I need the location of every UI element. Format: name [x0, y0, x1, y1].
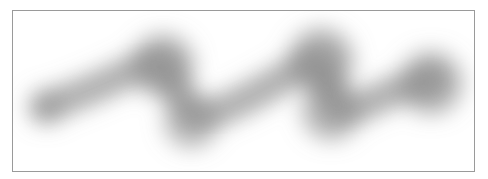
page-root [0, 0, 488, 179]
figure-frame [12, 10, 475, 172]
blurred-scribble-artwork [13, 11, 474, 171]
